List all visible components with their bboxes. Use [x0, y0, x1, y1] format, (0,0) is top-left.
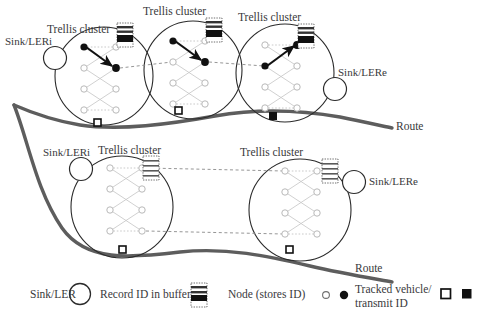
legend-buffer-icon [191, 283, 207, 307]
bottom-link-top [146, 168, 284, 171]
top-cluster-2-buffer [206, 18, 222, 42]
top-link-cluster1-cluster2 [120, 62, 172, 68]
top-sink-ingress-label: Sink/LERi [5, 35, 52, 47]
top-cluster-1-vehicle-marker [94, 119, 101, 126]
bottom-cluster-2-buffer [322, 159, 338, 183]
top-cluster-1-trellis [80, 43, 120, 113]
top-sink-egress-circle [324, 78, 347, 101]
bottom-cluster-1-label: Trellis cluster [98, 144, 161, 157]
bottom-cluster-2-label: Trellis cluster [240, 146, 303, 159]
top-sink-ingress-circle [44, 47, 67, 70]
legend-node-icons [323, 291, 349, 299]
top-cluster-2-trellis [169, 37, 209, 107]
bottom-sink-egress-label: Sink/LERe [369, 175, 418, 187]
top-cluster-3-circle [236, 24, 334, 122]
bottom-cluster-2-vehicle-marker [286, 246, 293, 253]
trellis-cluster-network-figure: Sink/LERi Trellis cluster Trellis cluste… [0, 0, 483, 321]
route-line-top [14, 105, 392, 128]
legend-sink-ler-label: Sink/LER [30, 288, 76, 301]
bottom-sink-ingress-label: Sink/LERi [43, 146, 90, 158]
bottom-route-label: Route [355, 262, 382, 275]
bottom-cluster-1-buffer [143, 156, 159, 180]
top-cluster-2-label: Trellis cluster [143, 5, 206, 18]
top-cluster-3-trellis [261, 41, 301, 111]
bottom-sink-ingress-circle [70, 158, 93, 181]
bottom-cluster-2-trellis [282, 168, 320, 237]
top-cluster-2-active-arrow [175, 41, 201, 60]
top-cluster-3-buffer [298, 24, 314, 48]
top-cluster-1-buffer [117, 23, 133, 47]
bottom-sink-egress-circle [343, 171, 366, 194]
legend-node-stores-id-label: Node (stores ID) [228, 288, 305, 301]
top-cluster-2-vehicle-marker [175, 107, 182, 114]
top-cluster-1-label: Trellis cluster [47, 23, 110, 36]
top-sink-egress-label: Sink/LERe [338, 66, 387, 78]
bottom-cluster-1-trellis [107, 165, 145, 234]
top-cluster-3-label: Trellis cluster [238, 11, 301, 24]
top-route-label: Route [396, 120, 423, 133]
route-line-bottom [14, 105, 392, 282]
top-cluster-3-vehicle-marker [269, 112, 277, 120]
bottom-cluster-1-vehicle-marker [119, 246, 126, 253]
diagram-canvas [0, 0, 483, 321]
legend-tracked-vehicle-label: Tracked vehicle/ transmit ID [355, 283, 451, 310]
legend-record-buffer-label: Record ID in buffer [100, 288, 191, 301]
top-cluster-1-active-arrow [86, 47, 112, 66]
